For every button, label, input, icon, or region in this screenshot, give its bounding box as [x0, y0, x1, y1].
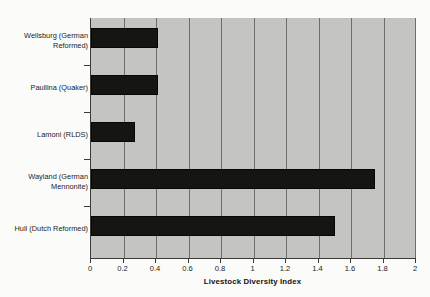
category-label-paullina: Paullina (Quaker)	[0, 83, 88, 93]
y-axis-tick	[84, 159, 90, 160]
category-label-wellsburg: Wellsburg (German Reformed)	[0, 31, 88, 50]
gridline-1.6	[351, 18, 352, 258]
category-label-wayland: Wayland (German Mennonite)	[0, 172, 88, 191]
bar-wayland	[91, 169, 375, 189]
bar-wellsburg	[91, 28, 158, 48]
x-axis-tick	[318, 259, 319, 263]
x-axis-tick	[383, 259, 384, 263]
plot-area	[90, 18, 416, 259]
x-axis-tick	[90, 259, 91, 263]
livestock-diversity-bar-chart: Wellsburg (German Reformed) Paullina (Qu…	[0, 0, 430, 297]
x-axis-tick	[415, 259, 416, 263]
category-label-lamoni: Lamoni (RLDS)	[0, 130, 88, 140]
y-axis-tick	[84, 112, 90, 113]
x-axis-tick	[253, 259, 254, 263]
x-axis-tick	[188, 259, 189, 263]
bar-hull	[91, 216, 335, 236]
x-tick-label-2: 2	[395, 264, 430, 273]
y-axis-tick	[84, 65, 90, 66]
x-axis-tick	[123, 259, 124, 263]
gridline-2.0	[415, 18, 416, 258]
x-axis-tick	[220, 259, 221, 263]
x-axis-tick	[155, 259, 156, 263]
bar-paullina	[91, 75, 158, 95]
gridline-1.8	[384, 18, 385, 258]
x-axis-tick	[285, 259, 286, 263]
category-label-hull: Hull (Dutch Reformed)	[0, 224, 88, 234]
x-axis-title: Livestock Diversity Index	[90, 277, 415, 286]
y-axis-tick	[84, 206, 90, 207]
bar-lamoni	[91, 122, 135, 142]
x-axis-tick	[350, 259, 351, 263]
